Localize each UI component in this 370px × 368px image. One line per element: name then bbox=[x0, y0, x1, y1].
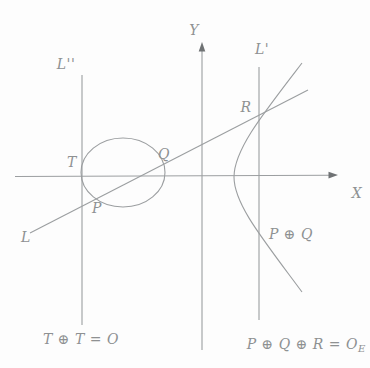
caption-p-q-r: P ⊕ Q ⊕ R = OE bbox=[247, 337, 366, 354]
point-q-label: Q bbox=[158, 147, 170, 161]
x-axis-arrowhead-icon bbox=[329, 172, 339, 179]
point-p-plus-q-label: P ⊕ Q bbox=[269, 227, 313, 241]
line-l-prime-label: L' bbox=[255, 42, 269, 56]
curve-oval-component bbox=[81, 138, 165, 207]
line-l-double-prime-label: L'' bbox=[57, 57, 76, 71]
line-l-label: L bbox=[21, 230, 31, 244]
y-axis-arrowhead-icon bbox=[199, 42, 206, 52]
point-p-label: P bbox=[92, 201, 102, 215]
caption-p-q-r-subscript: E bbox=[358, 343, 365, 354]
elliptic-curve-figure: Y X L' L'' L R T Q P P ⊕ Q T ⊕ T = O P ⊕… bbox=[0, 0, 370, 368]
point-r-label: R bbox=[240, 100, 251, 114]
caption-p-q-r-main: P ⊕ Q ⊕ R = O bbox=[247, 336, 358, 352]
diagram-canvas bbox=[0, 0, 370, 368]
y-axis-label: Y bbox=[189, 23, 199, 37]
point-t-label: T bbox=[67, 155, 77, 169]
curve-unbounded-branch bbox=[234, 63, 302, 292]
x-axis bbox=[15, 175, 330, 176]
caption-t-plus-t: T ⊕ T = O bbox=[43, 332, 119, 346]
x-axis-label: X bbox=[352, 186, 362, 200]
